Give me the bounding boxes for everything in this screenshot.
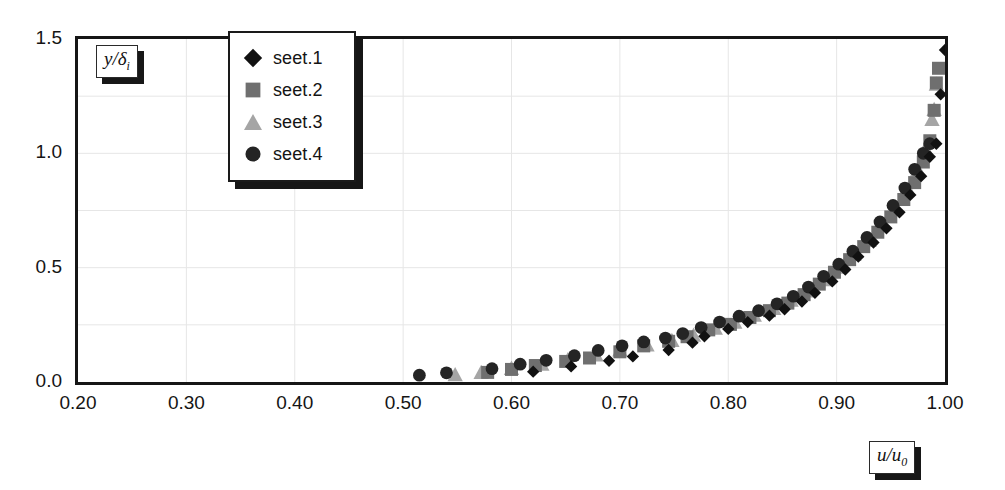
y-tick-label: 0.5	[0, 256, 62, 278]
legend-item-seet-4[interactable]: seet.4	[244, 138, 346, 170]
legend-item-seet-2[interactable]: seet.2	[244, 74, 346, 106]
x-tick-label: 0.60	[472, 392, 552, 414]
y-tick-label: 1.5	[0, 27, 62, 49]
data-markers	[78, 39, 945, 382]
diamond-marker-icon	[244, 49, 262, 67]
x-axis-title: u/u0	[869, 441, 915, 474]
y-axis-title-subscript: i	[127, 59, 130, 73]
legend-item-label: seet.1	[273, 48, 323, 69]
x-tick-label: 0.80	[688, 392, 768, 414]
x-tick-label: 0.70	[580, 392, 660, 414]
x-tick-label: 0.50	[363, 392, 443, 414]
y-axis-title-text: y/δ	[104, 48, 127, 69]
plot-frame	[75, 36, 948, 385]
y-tick-label: 0.0	[0, 370, 62, 392]
x-tick-label: 0.30	[146, 392, 226, 414]
x-axis-title-text: u/u	[877, 444, 901, 465]
legend-item-seet-3[interactable]: seet.3	[244, 106, 346, 138]
x-tick-label: 0.20	[38, 392, 118, 414]
square-marker-icon	[246, 83, 261, 98]
y-axis-title: y/δi	[96, 45, 138, 78]
triangle-marker-icon	[244, 114, 262, 130]
y-tick-label: 1.0	[0, 141, 62, 163]
x-tick-label: 1.00	[905, 392, 985, 414]
chart-legend: seet.1seet.2seet.3seet.4	[228, 31, 356, 182]
circle-marker-icon	[245, 146, 260, 161]
chart-page: 0.00.51.01.5 0.200.300.400.500.600.700.8…	[0, 0, 1005, 490]
legend-item-seet-1[interactable]: seet.1	[244, 42, 346, 74]
plot-area	[78, 39, 945, 382]
series-seet.3	[447, 77, 944, 382]
legend-item-label: seet.3	[273, 112, 323, 133]
legend-item-label: seet.4	[273, 144, 323, 165]
x-tick-label: 0.40	[255, 392, 335, 414]
x-axis-title-subscript: 0	[901, 455, 907, 469]
x-tick-label: 0.90	[797, 392, 877, 414]
legend-item-label: seet.2	[273, 80, 323, 101]
